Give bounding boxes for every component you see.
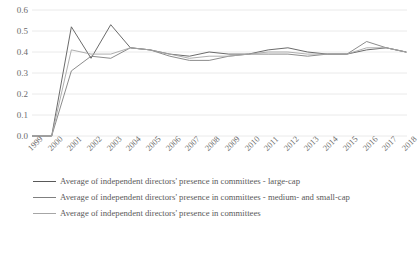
legend-item[interactable]: Average of independent directors' presen… bbox=[0, 192, 411, 203]
series-line-1 bbox=[32, 25, 406, 136]
y-axis-tick-label: 0.2 bbox=[17, 90, 28, 99]
y-axis-tick-label: 0.1 bbox=[17, 111, 28, 120]
x-axis-tick-label: 2000 bbox=[46, 134, 64, 152]
x-axis-tick-label: 2015 bbox=[341, 134, 359, 152]
series-line-3 bbox=[32, 48, 406, 136]
x-axis-tick-label: 2012 bbox=[282, 134, 300, 152]
legend-line-swatch bbox=[33, 181, 56, 182]
x-axis-tick-label: 2016 bbox=[361, 134, 379, 152]
legend-item-label: Average of independent directors' presen… bbox=[60, 176, 300, 187]
x-axis-tick-label: 2017 bbox=[381, 134, 399, 152]
x-axis-tick-label: 2007 bbox=[184, 134, 202, 152]
y-axis-tick-label: 0.3 bbox=[17, 69, 28, 78]
x-axis-tick-label: 2004 bbox=[125, 134, 143, 152]
x-axis-tick-label: 2013 bbox=[302, 134, 320, 152]
series-line-2 bbox=[32, 42, 406, 137]
x-axis-tick-label: 2003 bbox=[105, 134, 123, 152]
x-axis-tick-label: 2018 bbox=[400, 134, 418, 152]
y-axis-tick-label: 0.5 bbox=[17, 27, 28, 36]
x-axis-tick-label: 2011 bbox=[263, 135, 281, 153]
x-axis-tick-label: 2005 bbox=[144, 134, 162, 152]
x-axis-tick-label: 2009 bbox=[223, 134, 241, 152]
y-axis-tick-label: 0.4 bbox=[17, 48, 28, 57]
data-series-layer bbox=[32, 0, 407, 140]
x-axis-tick-label: 2006 bbox=[164, 134, 182, 152]
x-axis-tick-label: 2008 bbox=[203, 134, 221, 152]
x-axis: 1999200020012002200320042005200620072008… bbox=[32, 138, 407, 174]
legend-line-swatch bbox=[33, 213, 56, 214]
legend-item[interactable]: Average of independent directors' presen… bbox=[0, 208, 411, 219]
y-axis-tick-label: 0.6 bbox=[17, 6, 28, 15]
x-axis-tick-label: 2014 bbox=[322, 134, 340, 152]
chart-legend: Average of independent directors' presen… bbox=[0, 176, 411, 224]
x-axis-tick-label: 2001 bbox=[66, 134, 84, 152]
legend-item[interactable]: Average of independent directors' presen… bbox=[0, 176, 411, 187]
legend-item-label: Average of independent directors' presen… bbox=[60, 192, 350, 203]
legend-item-label: Average of independent directors' presen… bbox=[60, 208, 261, 219]
legend-line-swatch bbox=[33, 197, 56, 198]
y-axis-tick-label: 0.0 bbox=[17, 132, 28, 141]
plot-area: 0.00.10.20.30.40.50.6 199920002001200220… bbox=[0, 0, 411, 172]
x-axis-tick-label: 2010 bbox=[243, 134, 261, 152]
x-axis-tick-label: 2002 bbox=[85, 134, 103, 152]
